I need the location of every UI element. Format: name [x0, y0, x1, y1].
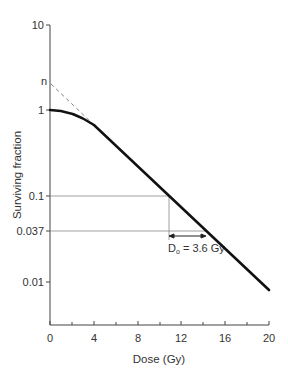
y-axis-title: Surviving fraction	[11, 131, 23, 219]
y-tick-label-0.037: 0.037	[16, 225, 44, 237]
x-ticks	[50, 321, 269, 325]
survival-curve-chart: 10 n 1 0.1 0.037 0.01 0 4 8 12 16 20 Dos…	[0, 0, 288, 376]
survival-curve	[50, 110, 269, 290]
x-tick-label-8: 8	[135, 332, 141, 344]
x-tick-label-16: 16	[219, 332, 231, 344]
y-tick-label-1: 1	[38, 104, 44, 116]
y-tick-label-0.1: 0.1	[29, 190, 44, 202]
d0-arrow	[169, 234, 206, 238]
x-tick-label-12: 12	[175, 332, 187, 344]
x-axis-title: Dose (Gy)	[133, 353, 186, 365]
y-ticks	[46, 25, 50, 282]
y-tick-label-n: n	[41, 75, 47, 87]
y-tick-label-0.01: 0.01	[23, 276, 44, 288]
extrapolation-line	[51, 84, 94, 125]
reference-lines	[50, 196, 206, 240]
d0-label: Do = 3.6 Gy	[168, 242, 225, 255]
x-tick-label-4: 4	[91, 332, 97, 344]
x-tick-label-20: 20	[263, 332, 275, 344]
y-tick-label-10: 10	[32, 19, 44, 31]
x-tick-label-0: 0	[47, 332, 53, 344]
